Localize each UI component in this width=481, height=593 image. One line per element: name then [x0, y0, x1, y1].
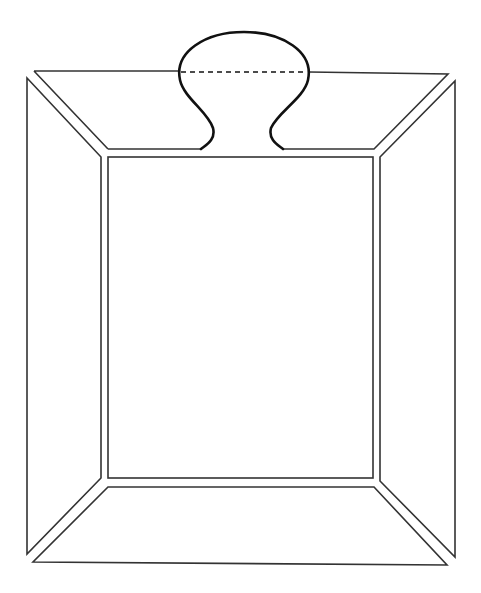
bottom-flap [33, 487, 447, 565]
box-template-diagram [0, 0, 481, 593]
left-flap [27, 78, 101, 554]
diagram-canvas [0, 0, 481, 593]
tab [179, 32, 308, 149]
center-panel [108, 157, 373, 478]
right-flap [380, 81, 455, 557]
top-flap [34, 71, 448, 149]
